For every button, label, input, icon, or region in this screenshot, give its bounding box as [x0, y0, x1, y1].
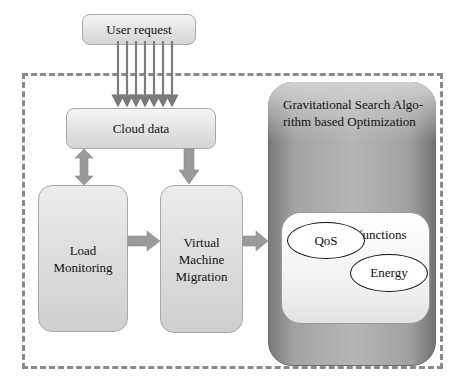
request-arrows	[118, 41, 172, 101]
cloud-to-vm-arrow	[179, 149, 199, 184]
vm-to-gsa-arrow	[243, 231, 268, 251]
load-to-vm-arrow	[128, 231, 160, 251]
arrows-layer	[0, 0, 460, 388]
bidirectional-arrow	[75, 149, 93, 185]
